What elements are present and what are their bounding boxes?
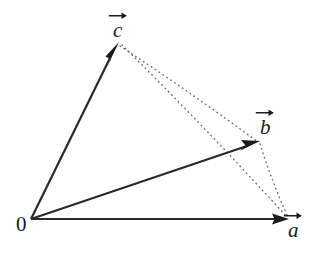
vector-a — [31, 214, 289, 225]
vector-b-letter: b — [260, 115, 271, 139]
vector-diagram-figure: c b a 0 — [0, 0, 321, 258]
vector-c-letter: c — [113, 18, 122, 42]
vector-c-shaft — [31, 58, 110, 219]
vector-diagram-canvas — [0, 0, 321, 258]
vector-b — [31, 140, 260, 219]
vector-c — [31, 42, 119, 219]
origin-label: 0 — [16, 214, 27, 235]
dotted-line-b-to-a — [260, 144, 288, 217]
vector-b-arrowhead — [240, 140, 260, 151]
vector-a-letter: a — [288, 218, 299, 242]
vector-c-label: c — [113, 20, 122, 41]
vector-b-label: b — [260, 117, 271, 138]
vector-a-label: a — [288, 220, 299, 241]
dotted-line-c-to-b — [120, 46, 258, 142]
vector-arrows — [31, 42, 289, 224]
vector-b-shaft — [31, 146, 247, 219]
